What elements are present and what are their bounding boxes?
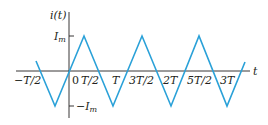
x-tick-3t: 3T — [220, 74, 236, 87]
x-tick-5half-t: 5T/2 — [187, 74, 212, 87]
x-axis-label: t — [253, 65, 258, 78]
x-tick-2t: 2T — [162, 74, 179, 87]
triangular-waveform-diagram: i(t) t Im −Im −T/2 0 T/2 T 3T/2 2T 5T/2 … — [0, 0, 268, 125]
x-tick-t: T — [112, 74, 121, 87]
x-tick-half-t: T/2 — [81, 74, 99, 87]
y-axis-label: i(t) — [50, 9, 67, 22]
neg-im-label: −Im — [76, 100, 98, 114]
im-label: Im — [53, 30, 66, 44]
x-tick-3half-t: 3T/2 — [129, 74, 154, 87]
x-tick-neg-half-t: −T/2 — [14, 74, 41, 87]
x-tick-zero: 0 — [72, 74, 79, 87]
